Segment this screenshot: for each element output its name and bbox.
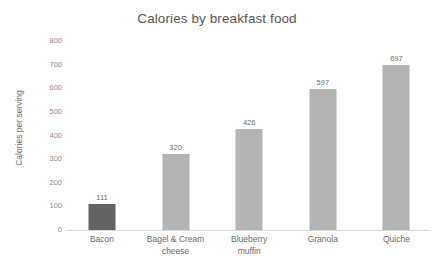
x-category-label: Bagel & Creamcheese — [140, 234, 212, 257]
bar[interactable] — [162, 154, 189, 230]
x-category-label-line: Blueberry — [213, 234, 285, 246]
y-tick-label: 100 — [36, 202, 62, 210]
bar-group: 111 — [66, 41, 138, 230]
bar-group: 426 — [213, 41, 285, 230]
bar[interactable] — [236, 129, 263, 230]
y-tick-label: 200 — [36, 179, 62, 187]
y-tick-label: 0 — [36, 226, 62, 234]
bar-value-label: 697 — [390, 54, 403, 63]
x-axis-line — [66, 230, 430, 231]
x-axis-category-labels: BaconBagel & CreamcheeseBlueberrymuffinG… — [66, 234, 434, 274]
bar[interactable] — [309, 89, 336, 230]
bar-value-label: 111 — [96, 193, 107, 202]
y-tick-label: 700 — [36, 61, 62, 69]
x-category-label: Bacon — [66, 234, 138, 246]
y-tick-label: 800 — [36, 37, 62, 45]
y-axis-tick-labels: 8007006005004003002001000 — [36, 41, 62, 230]
bar-chart: Calories by breakfast food Calories per … — [0, 0, 434, 276]
bar[interactable] — [383, 65, 410, 230]
x-category-label-line: Granola — [287, 234, 359, 246]
bar[interactable] — [89, 204, 116, 230]
bar-value-label: 597 — [317, 78, 330, 87]
x-category-label-line: Quiche — [360, 234, 432, 246]
y-tick-label: 500 — [36, 108, 62, 116]
x-category-label-line: cheese — [140, 246, 212, 258]
x-category-label-line: Bacon — [66, 234, 138, 246]
y-tick-label: 600 — [36, 84, 62, 92]
x-category-label: Granola — [287, 234, 359, 246]
bar-group: 597 — [287, 41, 359, 230]
x-category-label-line: muffin — [213, 246, 285, 258]
bar-group: 320 — [140, 41, 212, 230]
plot-area: 111320426597697 — [66, 41, 434, 230]
x-category-label: Quiche — [360, 234, 432, 246]
bar-group: 697 — [360, 41, 432, 230]
y-tick-label: 300 — [36, 155, 62, 163]
x-category-label: Blueberrymuffin — [213, 234, 285, 257]
y-axis-title: Calories per serving — [14, 33, 28, 223]
bar-value-label: 426 — [243, 118, 256, 127]
chart-title: Calories by breakfast food — [0, 11, 434, 26]
bar-value-label: 320 — [169, 143, 182, 152]
y-tick-label: 400 — [36, 132, 62, 140]
x-category-label-line: Bagel & Cream — [140, 234, 212, 246]
